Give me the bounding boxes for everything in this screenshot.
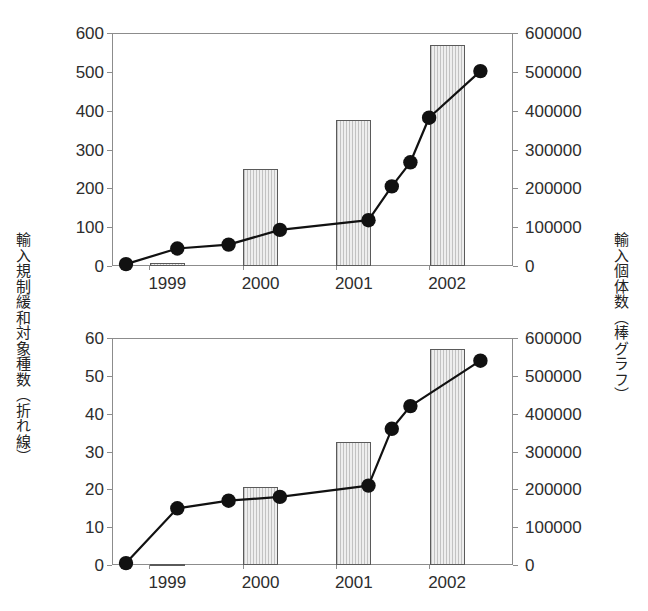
- data-point-top-2: 55: [221, 237, 235, 251]
- data-point-top-1: 45: [170, 241, 184, 255]
- data-point-bottom-7: 54: [473, 354, 487, 368]
- data-point-top-7: 382: [422, 111, 436, 125]
- dual-chart-figure: 輸入規制緩和対象種数（折れ線） 輸入個体数（棒グラフ） 010020030040…: [0, 0, 648, 611]
- data-point-bottom-1: 15: [170, 501, 184, 515]
- data-point-top-8: 502: [473, 64, 487, 78]
- data-point-bottom-3: 18: [273, 490, 287, 504]
- line-path-top: [126, 71, 480, 264]
- chart-top: 0100200300400500600010000020000030000040…: [0, 0, 648, 305]
- data-point-bottom-4: 21: [361, 478, 375, 492]
- data-point-top-4: 118: [361, 213, 375, 227]
- data-point-bottom-6: 42: [403, 399, 417, 413]
- data-point-bottom-5: 36: [385, 422, 399, 436]
- line-path-bottom: [126, 361, 480, 563]
- data-point-top-5: 205: [385, 179, 399, 193]
- data-point-top-0: 5: [119, 257, 133, 271]
- data-point-top-6: 267: [403, 155, 417, 169]
- line-series-bottom-0: 0.515171821364254: [0, 305, 648, 611]
- data-point-bottom-2: 17: [221, 494, 235, 508]
- data-point-top-3: 93: [273, 223, 287, 237]
- line-series-top-0: 5455593118205267382502: [0, 0, 648, 305]
- data-point-bottom-0: 0.5: [119, 556, 133, 570]
- chart-bottom: 0102030405060010000020000030000040000050…: [0, 305, 648, 611]
